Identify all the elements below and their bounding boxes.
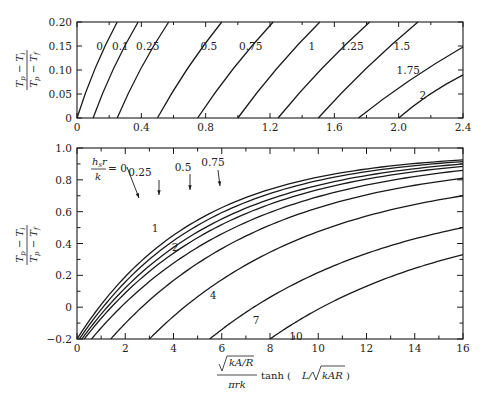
top-y-tick-label: 0 (65, 112, 72, 124)
bottom-curve-10 (270, 255, 463, 339)
top-curve-label: 0 (96, 40, 103, 52)
bottom-y-tick-label: −0.2 (47, 333, 73, 345)
bottom-x-axis-title: kA/Rπrktanh (L/kAR) (217, 356, 350, 390)
bottom-x-tick-label: 6 (218, 342, 225, 354)
top-curve-label: 1.75 (397, 64, 420, 76)
bottom-chart: 0246810121416−0.200.20.40.60.81.00.250.5… (47, 142, 470, 354)
top-curve-1 (238, 22, 320, 118)
legend-eq-zero: = 0 (108, 162, 127, 174)
bottom-curve-label: 0.75 (201, 156, 224, 168)
svg-text:Tp − Tf: Tp − Tf (28, 51, 41, 88)
svg-text:tanh (: tanh ( (261, 370, 291, 381)
top-x-tick-label: 2.0 (390, 121, 407, 133)
bottom-y-tick-label: 0 (65, 301, 72, 313)
top-x-tick-label: 2.4 (455, 121, 472, 133)
top-y-tick-label: 0.10 (49, 64, 72, 76)
top-curve-label: 1 (308, 40, 315, 52)
bottom-y-tick-label: 0.8 (55, 174, 72, 186)
top-curve-0.1 (93, 22, 138, 118)
top-curve-0.25 (117, 22, 168, 118)
svg-text:kA/R: kA/R (229, 357, 254, 368)
bottom-curve-label: 0.5 (175, 161, 192, 173)
bottom-curve-label: 4 (210, 289, 217, 301)
top-x-tick-label: 0.4 (133, 121, 150, 133)
top-curve-label: 0.5 (201, 40, 218, 52)
top-curve-label: 2 (419, 89, 426, 101)
bottom-x-tick-label: 14 (408, 342, 422, 354)
legend-k: k (95, 171, 101, 182)
bottom-x-tick-label: 4 (170, 342, 177, 354)
top-curve-label: 1.25 (340, 40, 363, 52)
svg-text:kAR: kAR (322, 370, 343, 381)
bottom-y-tick-label: 0.6 (55, 206, 72, 218)
bottom-curve-label: 0.25 (128, 166, 151, 178)
top-curve-label: 0.75 (239, 40, 262, 52)
top-chart: 00.40.81.21.62.02.400.050.100.150.2000.1… (49, 16, 472, 133)
top-curve-0.5 (157, 22, 221, 118)
top-curve-label: 0.25 (136, 40, 159, 52)
top-curve-label: 0.1 (112, 40, 129, 52)
bottom-curve-1 (91, 170, 463, 339)
arrowhead-icon (157, 190, 160, 195)
chart-figure: 00.40.81.21.62.02.400.050.100.150.2000.1… (0, 0, 490, 406)
arrowhead-icon (136, 193, 139, 198)
bottom-curve-label: 2 (172, 241, 179, 253)
top-y-tick-label: 0.05 (49, 88, 72, 100)
top-y-axis-title: Tp − TiTp − Tf (14, 50, 41, 90)
top-y-tick-label: 0.20 (49, 16, 72, 28)
top-x-tick-label: 1.6 (326, 121, 343, 133)
bottom-y-tick-label: 1.0 (55, 142, 72, 154)
svg-text:Tp − Tf: Tp − Tf (28, 226, 41, 263)
top-x-tick-label: 1.2 (262, 121, 279, 133)
svg-text:Tp − Ti: Tp − Ti (14, 228, 27, 263)
svg-text:πrk: πrk (227, 379, 245, 390)
bottom-curve-2 (111, 178, 463, 339)
svg-text:): ) (346, 370, 350, 381)
svg-text:L/: L/ (301, 370, 314, 381)
top-curve-1.25 (278, 22, 370, 118)
top-curve-0 (77, 22, 117, 118)
bottom-x-tick-label: 12 (360, 342, 373, 354)
top-y-tick-label: 0.15 (49, 40, 72, 52)
top-x-tick-label: 0 (74, 121, 81, 133)
bottom-x-tick-label: 0 (74, 342, 81, 354)
bottom-curve-label: 7 (253, 314, 260, 326)
top-x-tick-label: 0.8 (197, 121, 214, 133)
arrowhead-icon (188, 185, 191, 190)
bottom-curve-label: 10 (289, 330, 302, 342)
top-curve-label: 1.5 (394, 40, 411, 52)
bottom-x-tick-label: 10 (312, 342, 325, 354)
bottom-x-tick-label: 2 (122, 342, 129, 354)
svg-text:Tp − Ti: Tp − Ti (14, 53, 27, 88)
bottom-y-tick-label: 0.4 (55, 238, 72, 250)
bottom-curve-7 (210, 228, 463, 339)
bottom-curve-label: 1 (152, 222, 159, 234)
bottom-x-tick-label: 8 (267, 342, 274, 354)
bottom-x-tick-label: 16 (456, 342, 470, 354)
legend-hsr: hsr (92, 156, 108, 169)
bottom-y-tick-label: 0.2 (55, 269, 72, 281)
top-curve-0.75 (198, 22, 274, 118)
bottom-y-axis-title: Tp − TiTp − Tf (14, 225, 41, 265)
arrowhead-icon (218, 181, 221, 186)
